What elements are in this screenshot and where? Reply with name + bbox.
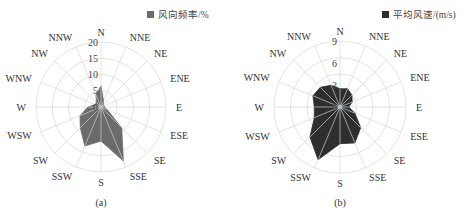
direction-label: ESE (410, 131, 428, 142)
direction-label: NW (31, 48, 48, 59)
caption-a: (a) (86, 197, 116, 208)
legend-swatch-icon (382, 11, 389, 18)
direction-label: W (255, 102, 265, 113)
direction-label: NNW (48, 32, 72, 43)
direction-label: N (97, 27, 104, 38)
direction-label: SE (394, 155, 406, 166)
legend-swatch-icon (147, 11, 154, 18)
legend-mean-wind-speed: 平均风速/(m/s) (382, 7, 456, 21)
direction-label: NNE (130, 32, 151, 43)
direction-label: SSW (290, 172, 311, 183)
radial-tick-label: 20 (88, 37, 98, 48)
direction-label: NNW (287, 31, 311, 42)
direction-label: SE (154, 155, 166, 166)
direction-label: WNW (244, 72, 271, 83)
direction-label: ENE (410, 72, 429, 83)
direction-label: NE (154, 48, 167, 59)
direction-label: WNW (6, 73, 33, 84)
radial-tick-label: 0 (332, 102, 337, 113)
radial-tick-label: 0 (93, 102, 98, 113)
direction-label: SSW (52, 171, 73, 182)
radial-tick-label: 10 (88, 69, 98, 80)
direction-label: S (98, 177, 104, 188)
legend-wind-frequency: 风向频率/% (147, 7, 209, 21)
direction-label: SSE (130, 171, 147, 182)
direction-label: NNE (369, 31, 390, 42)
direction-label: S (337, 178, 343, 189)
legend-label: 平均风速/(m/s) (393, 7, 456, 21)
direction-label: N (336, 26, 343, 37)
chart-panel-b: 0369NNNENEENEEESESESSESSSWSWWSWWWNWNWNNW… (235, 0, 470, 218)
direction-label: ESE (170, 130, 188, 141)
radial-tick-label: 15 (88, 53, 98, 64)
radar-chart-mean-wind-speed: 0369NNNENEENEEESESESSESSSWSWWSWWWNWNWNNW (235, 0, 470, 218)
direction-label: SW (33, 155, 49, 166)
direction-label: WSW (245, 131, 270, 142)
radial-tick-label: 5 (93, 85, 98, 96)
chart-panel-a: 05101520NNNENEENEEESESESSESSSWSWWSWWWNWN… (0, 0, 235, 218)
legend-label: 风向频率/% (158, 7, 209, 21)
direction-label: NW (270, 48, 287, 59)
radar-chart-wind-frequency: 05101520NNNENEENEEESESESSESSSWSWWSWWWNWN… (0, 0, 235, 218)
direction-label: ENE (170, 73, 189, 84)
radial-tick-label: 3 (332, 80, 337, 91)
direction-label: WSW (7, 130, 32, 141)
direction-label: W (17, 102, 27, 113)
direction-label: E (416, 102, 422, 113)
direction-label: SSE (369, 172, 386, 183)
radial-tick-label: 9 (332, 36, 337, 47)
direction-label: SW (271, 155, 287, 166)
radial-tick-label: 6 (332, 58, 337, 69)
direction-label: NE (394, 48, 407, 59)
direction-label: E (176, 102, 182, 113)
data-area (80, 86, 123, 161)
caption-b: (b) (325, 197, 355, 208)
